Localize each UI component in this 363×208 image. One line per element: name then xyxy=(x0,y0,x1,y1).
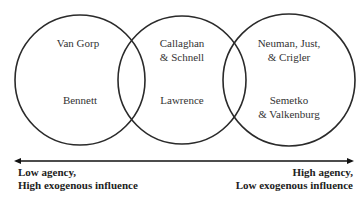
label-lawrence: Lawrence xyxy=(160,94,203,107)
label-callaghan: Callaghan xyxy=(160,37,205,50)
circle-left xyxy=(15,15,145,145)
axis-left-line1: Low agency, xyxy=(18,166,138,179)
circle-middle xyxy=(118,16,246,144)
label-crigler: & Crigler xyxy=(268,51,310,64)
axis-label-high-agency: High agency, Low exogenous influence xyxy=(236,166,353,192)
double-arrow-axis xyxy=(14,158,354,164)
axis-label-low-agency: Low agency, High exogenous influence xyxy=(18,166,138,192)
label-van-gorp: Van Gorp xyxy=(57,37,99,50)
axis-left-line2: High exogenous influence xyxy=(18,179,138,192)
circle-right xyxy=(223,14,355,146)
label-bennett: Bennett xyxy=(63,94,97,107)
label-valkenburg: & Valkenburg xyxy=(258,108,320,121)
axis-right-line1: High agency, xyxy=(236,166,353,179)
label-semetko: Semetko xyxy=(270,94,309,107)
axis-right-line2: Low exogenous influence xyxy=(236,179,353,192)
label-schnell: & Schnell xyxy=(160,51,204,64)
label-neuman: Neuman, Just, xyxy=(258,37,321,50)
